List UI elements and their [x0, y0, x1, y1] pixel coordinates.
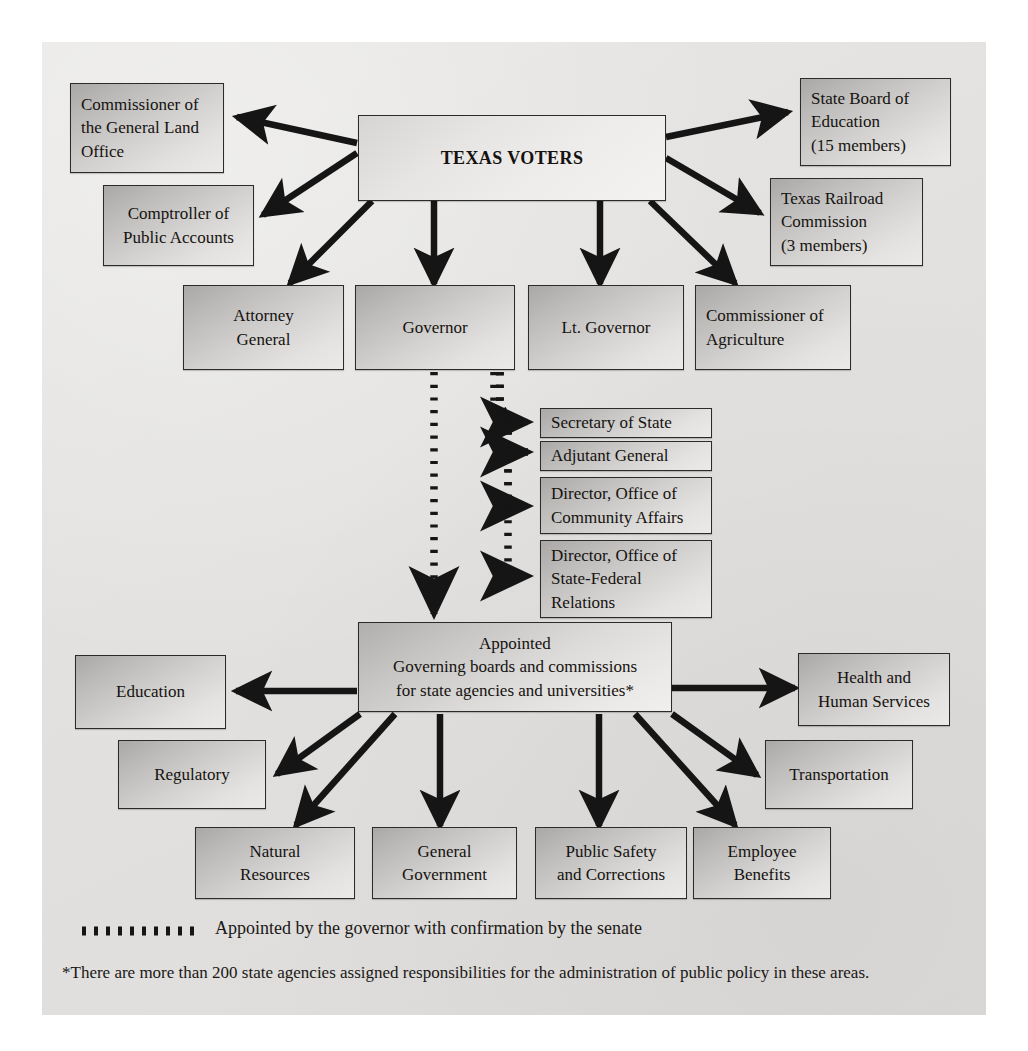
node-attorney-general-label: Attorney General	[233, 304, 293, 351]
node-education[interactable]: Education	[75, 655, 226, 729]
node-employee-benefits[interactable]: Employee Benefits	[693, 827, 831, 899]
node-land-office[interactable]: Commissioner of the General Land Office	[70, 83, 224, 173]
node-natural-resources-label: Natural Resources	[240, 840, 310, 887]
node-board-education-label: State Board of Education (15 members)	[811, 87, 909, 157]
node-secretary-of-state[interactable]: Secretary of State	[540, 408, 712, 438]
node-comptroller-label: Comptroller of Public Accounts	[123, 202, 234, 249]
node-governor-label: Governor	[402, 316, 467, 339]
node-land-office-label: Commissioner of the General Land Office	[81, 93, 199, 163]
node-transportation[interactable]: Transportation	[765, 740, 913, 809]
node-texas-voters[interactable]: TEXAS VOTERS	[358, 115, 666, 201]
node-general-government-label: General Government	[402, 840, 487, 887]
node-adjutant-general[interactable]: Adjutant General	[540, 441, 712, 471]
node-comptroller[interactable]: Comptroller of Public Accounts	[103, 185, 254, 266]
node-public-safety[interactable]: Public Safety and Corrections	[535, 827, 687, 899]
node-education-label: Education	[116, 680, 185, 703]
node-lt-governor[interactable]: Lt. Governor	[528, 285, 684, 370]
node-board-education[interactable]: State Board of Education (15 members)	[800, 78, 951, 166]
node-agriculture-commissioner-label: Commissioner of Agriculture	[706, 304, 824, 351]
node-health-human-services[interactable]: Health and Human Services	[798, 653, 950, 726]
node-appointed-boards-label: Appointed Governing boards and commissio…	[393, 632, 637, 702]
node-community-affairs-label: Director, Office of Community Affairs	[551, 482, 683, 529]
node-regulatory-label: Regulatory	[154, 763, 230, 786]
legend-label: Appointed by the governor with confirmat…	[215, 918, 642, 939]
node-natural-resources[interactable]: Natural Resources	[195, 827, 355, 899]
node-railroad-commission-label: Texas Railroad Commission (3 members)	[781, 187, 883, 257]
node-lt-governor-label: Lt. Governor	[562, 316, 651, 339]
node-regulatory[interactable]: Regulatory	[118, 740, 266, 809]
node-secretary-of-state-label: Secretary of State	[551, 411, 672, 434]
node-governor[interactable]: Governor	[355, 285, 515, 370]
node-attorney-general[interactable]: Attorney General	[183, 285, 344, 370]
node-appointed-boards[interactable]: Appointed Governing boards and commissio…	[358, 622, 672, 712]
node-health-human-services-label: Health and Human Services	[818, 666, 930, 713]
node-railroad-commission[interactable]: Texas Railroad Commission (3 members)	[770, 178, 923, 266]
footnote-text: *There are more than 200 state agencies …	[62, 963, 869, 983]
node-texas-voters-label: TEXAS VOTERS	[441, 146, 584, 171]
node-community-affairs[interactable]: Director, Office of Community Affairs	[540, 477, 712, 534]
node-general-government[interactable]: General Government	[372, 827, 517, 899]
node-employee-benefits-label: Employee Benefits	[728, 840, 797, 887]
node-agriculture-commissioner[interactable]: Commissioner of Agriculture	[695, 285, 851, 370]
node-state-federal-relations-label: Director, Office of State-Federal Relati…	[551, 544, 677, 614]
node-public-safety-label: Public Safety and Corrections	[557, 840, 665, 887]
node-state-federal-relations[interactable]: Director, Office of State-Federal Relati…	[540, 540, 712, 618]
organization-chart-page: Commissioner of the General Land Office …	[0, 0, 1028, 1051]
node-transportation-label: Transportation	[789, 763, 889, 786]
node-adjutant-general-label: Adjutant General	[551, 444, 669, 467]
